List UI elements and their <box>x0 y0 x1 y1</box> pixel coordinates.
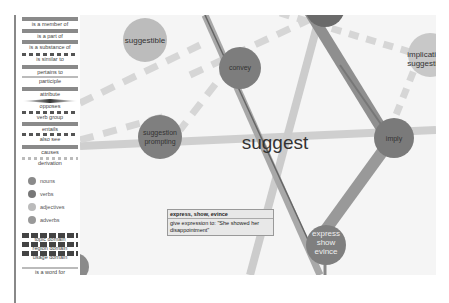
label-implicative: implicati suggesti <box>407 50 436 68</box>
word-for-label: is a word for <box>22 269 78 275</box>
legend-domain: usage domain <box>22 251 78 260</box>
relation-label: is similar to <box>22 56 78 62</box>
node-type-label: nouns <box>40 178 55 184</box>
label-implicative-line2: suggesti <box>407 59 436 68</box>
relation-label: is a member of <box>22 21 78 27</box>
relation-label: entails <box>22 126 78 132</box>
node-top[interactable] <box>305 15 345 27</box>
label-suggestion: suggestion prompting <box>143 128 177 146</box>
legend-relation: derivation <box>22 157 78 166</box>
node-bottomleft[interactable] <box>80 253 89 275</box>
node-type-dot-icon <box>28 190 36 198</box>
legend-relation: is a member of <box>22 17 78 27</box>
tooltip-definition: give expression to: "She showed her disa… <box>168 219 273 235</box>
relation-label: derivation <box>22 160 78 166</box>
legend-domain: region domain <box>22 242 78 251</box>
label-convey: convey <box>229 63 251 72</box>
legend-relation: entails <box>22 122 78 132</box>
relation-label: participle <box>22 78 78 84</box>
center-word[interactable]: suggest <box>242 132 309 154</box>
legend-relation: is a substance of <box>22 40 78 50</box>
label-express-line1: express <box>312 229 340 238</box>
node-type-dot-icon <box>28 203 36 211</box>
legend-word-for: is a word for <box>22 267 78 275</box>
label-suggestion-line2: prompting <box>143 137 177 146</box>
node-type-label: adverbs <box>40 217 60 223</box>
legend-relation: participle <box>22 76 78 84</box>
label-suggestible: suggestible <box>125 36 165 45</box>
legend-relation: also see <box>22 133 78 142</box>
legend-relation: causes <box>22 145 78 155</box>
node-type-dot-icon <box>28 177 36 185</box>
label-imply: imply <box>386 134 402 143</box>
edge-dash-implicative <box>280 15 420 55</box>
relation-label: is a substance of <box>22 44 78 50</box>
node-type-label: verbs <box>40 191 53 197</box>
label-suggestion-line1: suggestion <box>143 128 177 137</box>
tooltip-title: express, show, evince <box>168 210 273 219</box>
legend-relation: opposes <box>22 99 78 109</box>
edge-top-imply-thin <box>340 65 385 130</box>
label-express-line2: show <box>312 238 340 247</box>
relation-label: pertains to <box>22 69 78 75</box>
relation-label: opposes <box>22 103 78 109</box>
label-express: express show evince <box>312 229 340 256</box>
relation-label: verb group <box>22 114 78 120</box>
label-implicative-line1: implicati <box>407 50 436 59</box>
node-type-label: adjectives <box>40 204 64 210</box>
legend-node-type: adverbs <box>28 216 60 224</box>
relation-label: is a part of <box>22 33 78 39</box>
relation-label: attribute <box>22 91 78 97</box>
legend-panel: is a member ofis a part ofis a substance… <box>14 15 80 303</box>
legend-node-type: verbs <box>28 190 53 198</box>
legend-relation: is similar to <box>22 53 78 62</box>
graph-canvas[interactable]: suggestible convey implicati suggesti su… <box>80 15 436 275</box>
legend-relation: is a part of <box>22 29 78 39</box>
domain-label: usage domain <box>22 254 78 260</box>
node-type-dot-icon <box>28 216 36 224</box>
legend-relation: pertains to <box>22 65 78 75</box>
legend-domain: topic domain <box>22 233 78 242</box>
legend-node-type: nouns <box>28 177 55 185</box>
label-express-line3: evince <box>312 247 340 256</box>
definition-tooltip: express, show, evince give expression to… <box>167 209 274 236</box>
relation-label: also see <box>22 136 78 142</box>
legend-node-type: adjectives <box>28 203 64 211</box>
legend-relation: attribute <box>22 87 78 97</box>
relation-label: causes <box>22 149 78 155</box>
legend-relation: verb group <box>22 111 78 120</box>
